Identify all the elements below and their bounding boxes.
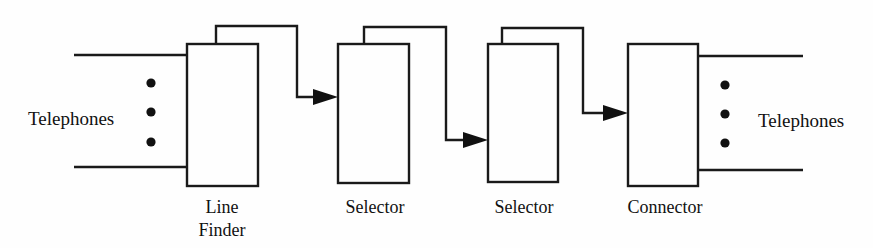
- left-endpoint-label: Telephones: [28, 108, 114, 129]
- stage-box-selector-2: [488, 44, 558, 182]
- right-ellipsis-dot-1: [720, 80, 729, 89]
- stage-label-line-finder-line2: Finder: [199, 220, 246, 240]
- right-ellipsis-dot-3: [720, 138, 729, 147]
- right-ellipsis-dot-2: [720, 109, 729, 118]
- left-ellipsis-dot-2: [146, 107, 155, 116]
- stage-label-selector-1: Selector: [346, 197, 405, 217]
- telephone-switching-diagram: Telephones Telephones Line Finder Select…: [0, 0, 873, 248]
- arrow-head-connector-input: [603, 105, 628, 121]
- left-ellipsis-dot-1: [146, 78, 155, 87]
- stage-label-line-finder-line1: Line: [206, 197, 239, 217]
- stage-box-connector: [628, 44, 698, 186]
- left-ellipsis-dot-3: [146, 137, 155, 146]
- stage-box-line-finder: [187, 44, 258, 186]
- right-endpoint-label: Telephones: [758, 110, 844, 131]
- arrow-head-selector-2-input: [463, 132, 488, 148]
- arrow-head-selector-1-input: [313, 89, 338, 105]
- stage-label-connector: Connector: [628, 197, 703, 217]
- diagram-canvas: Telephones Telephones Line Finder Select…: [0, 0, 873, 248]
- stage-box-selector-1: [338, 44, 409, 183]
- stage-label-selector-2: Selector: [495, 197, 554, 217]
